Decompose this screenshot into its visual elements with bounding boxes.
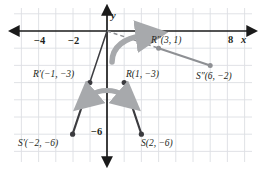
x-axis-name: x (241, 35, 246, 46)
label-R-prime: R′(−1, −3) (33, 70, 74, 80)
point-S-double-prime (208, 63, 213, 68)
point-S-prime (70, 132, 75, 137)
x-tick-label-8: 8 (228, 35, 233, 46)
label-R-double-prime: R″(3, 1) (151, 36, 181, 46)
label-S: S(2, −6) (141, 139, 173, 149)
point-R-double-prime (156, 46, 161, 51)
x-tick-label-neg2: −2 (68, 36, 79, 47)
y-axis-name: y (111, 11, 116, 22)
label-S-double-prime: S″(6, −2) (196, 72, 232, 82)
x-tick-label-neg4: −4 (34, 36, 45, 47)
point-R (122, 80, 127, 85)
label-R: R(1, −3) (126, 70, 159, 80)
y-tick-label-neg6: −6 (91, 127, 102, 138)
label-S-prime: S′(−2, −6) (18, 139, 58, 149)
point-S (139, 132, 144, 137)
figure-canvas: −4 −2 8 x y −6 R″(3, 1) S″(6, −2) R(1, −… (0, 0, 262, 170)
